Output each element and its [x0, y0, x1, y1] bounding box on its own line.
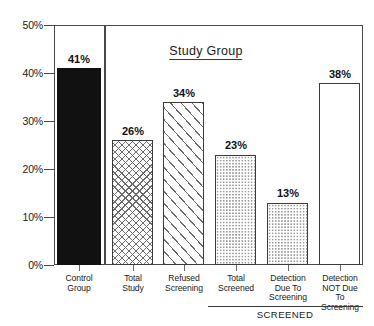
y-tick-50: [44, 25, 54, 26]
x-axis-label-detection-due: Detection Due To Screening: [269, 274, 307, 303]
bar-total-screened: [215, 155, 256, 265]
y-axis-label-40: 40%: [23, 67, 43, 79]
bar-control-group: [57, 68, 101, 265]
bar-chart-figure: 50% 40% 30% 20% 10% 0% 41% 26% 34% 23% 1…: [0, 0, 374, 326]
y-tick-10: [44, 217, 54, 218]
bar-value-detection-due: 13%: [277, 187, 299, 199]
x-tick-refused-screening: [184, 265, 185, 271]
y-axis-label-0: 0%: [28, 259, 43, 271]
bar-value-total-screened: 23%: [225, 139, 247, 151]
screened-bracket-line: [208, 306, 363, 307]
x-axis-label-total-screened: Total Screened: [218, 274, 254, 293]
x-axis-label-control-group: Control Group: [65, 274, 92, 293]
bar-value-total-study: 26%: [122, 125, 144, 137]
y-tick-0: [44, 265, 54, 266]
y-axis-label-20: 20%: [23, 163, 43, 175]
x-axis-label-refused-screening: Refused Screening: [165, 274, 203, 293]
x-tick-detection-not-due: [340, 265, 341, 271]
bar-detection-due: [267, 203, 308, 265]
y-tick-30: [44, 121, 54, 122]
bar-refused-screening: [163, 102, 204, 265]
bars-layer: [54, 25, 363, 265]
x-tick-detection-due: [288, 265, 289, 271]
x-tick-total-screened: [236, 265, 237, 271]
bar-value-detection-not-due: 38%: [329, 68, 351, 80]
y-axis-label-50: 50%: [23, 19, 43, 31]
y-tick-40: [44, 73, 54, 74]
x-axis-label-total-study: Total Study: [122, 274, 143, 293]
y-tick-20: [44, 169, 54, 170]
chart-title-study-group: Study Group: [169, 44, 242, 60]
bar-total-study: [112, 140, 153, 265]
bar-detection-not-due: [319, 83, 360, 265]
y-axis-label-10: 10%: [23, 211, 43, 223]
y-axis-label-30: 30%: [23, 115, 43, 127]
x-tick-total-study: [133, 265, 134, 271]
bar-value-refused-screening: 34%: [173, 87, 195, 99]
screened-bracket-label: SCREENED: [257, 309, 314, 320]
bar-value-control-group: 41%: [68, 53, 90, 65]
x-tick-control-group: [79, 265, 80, 271]
